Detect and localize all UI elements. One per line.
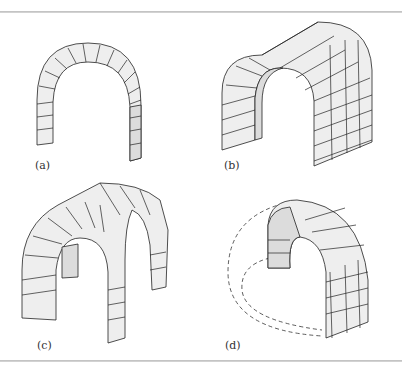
- panel-label-d: (d): [225, 339, 241, 352]
- arch-illustration: [37, 43, 141, 161]
- panel-label-a: (a): [35, 159, 50, 172]
- panel-label-c: (c): [37, 339, 52, 352]
- figure-drawings: [0, 0, 402, 379]
- dome-illustration: [228, 200, 368, 338]
- panel-label-b: (b): [224, 159, 240, 172]
- barrel-vault-illustration: [222, 22, 372, 166]
- groin-vault-illustration: [22, 183, 168, 343]
